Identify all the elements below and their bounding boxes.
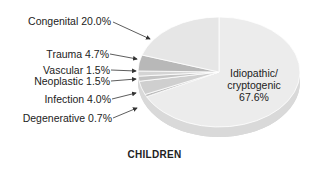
- arrow-vascular: [111, 70, 136, 71]
- arrow-infection: [112, 93, 136, 99]
- label-idiopathic-line2: cryptogenic: [209, 79, 299, 91]
- chart-title: CHILDREN: [0, 149, 309, 160]
- label-trauma: Trauma 4.7%: [46, 48, 109, 60]
- arrow-neoplastic: [111, 79, 136, 81]
- label-infection: Infection 4.0%: [44, 93, 111, 105]
- arrow-trauma: [110, 54, 137, 59]
- arrow-degenerative: [113, 108, 137, 118]
- label-degenerative: Degenerative 0.7%: [23, 112, 112, 124]
- arrow-congenital: [113, 22, 150, 39]
- pie-chart: Congenital 20.0% Trauma 4.7% Vascular 1.…: [0, 0, 309, 171]
- label-idiopathic-line1: Idiopathic/: [209, 67, 299, 79]
- label-neoplastic: Neoplastic 1.5%: [34, 75, 110, 87]
- label-idiopathic-value: 67.6%: [209, 91, 299, 103]
- label-congenital: Congenital 20.0%: [28, 15, 111, 27]
- label-idiopathic: Idiopathic/ cryptogenic 67.6%: [209, 67, 299, 103]
